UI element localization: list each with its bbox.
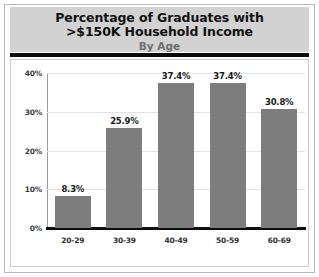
- bar-value-label: 37.4%: [162, 71, 191, 81]
- bar-group: 37.4%40-49: [150, 73, 202, 228]
- header-divider-rule: [10, 53, 309, 57]
- chart-title-line-2: >$150K Household Income: [10, 25, 309, 39]
- title-block: Percentage of Graduates with >$150K Hous…: [10, 7, 309, 53]
- bar[interactable]: [158, 83, 194, 228]
- bar[interactable]: [210, 83, 246, 228]
- bar-value-label: 37.4%: [213, 71, 242, 81]
- x-axis-category-label: 20-29: [61, 236, 84, 245]
- bar[interactable]: [106, 128, 142, 228]
- bar-value-label: 25.9%: [110, 116, 139, 126]
- bar-value-label: 8.3%: [61, 184, 84, 194]
- x-axis-category-label: 30-39: [113, 236, 136, 245]
- x-axis-category-label: 40-49: [164, 236, 187, 245]
- bar-group: 8.3%20-29: [47, 73, 99, 228]
- plot-area: 0%10%20%30%40% 8.3%20-2925.9%30-3937.4%4…: [47, 73, 305, 228]
- chart-figure: Percentage of Graduates with >$150K Hous…: [4, 4, 315, 273]
- bar-value-label: 30.8%: [265, 97, 294, 107]
- bar[interactable]: [55, 196, 91, 228]
- bar[interactable]: [261, 109, 297, 228]
- y-axis-tick-label: 0%: [30, 224, 42, 233]
- chart-title-line-1: Percentage of Graduates with: [10, 11, 309, 25]
- bar-group: 30.8%60-69: [253, 73, 305, 228]
- bar-layer: 8.3%20-2925.9%30-3937.4%40-4937.4%50-593…: [47, 73, 305, 228]
- x-axis-category-label: 60-69: [268, 236, 291, 245]
- y-axis-tick-label: 10%: [25, 185, 42, 194]
- x-axis-category-label: 50-59: [216, 236, 239, 245]
- header-band: Percentage of Graduates with >$150K Hous…: [10, 7, 309, 52]
- plot-frame: 0%10%20%30%40% 8.3%20-2925.9%30-3937.4%4…: [10, 59, 309, 267]
- chart-subtitle: By Age: [10, 40, 309, 53]
- y-axis-tick-label: 40%: [25, 69, 42, 78]
- y-axis-tick-label: 20%: [25, 146, 42, 155]
- y-axis-tick-label: 30%: [25, 107, 42, 116]
- bar-group: 37.4%50-59: [202, 73, 254, 228]
- bar-group: 25.9%30-39: [99, 73, 151, 228]
